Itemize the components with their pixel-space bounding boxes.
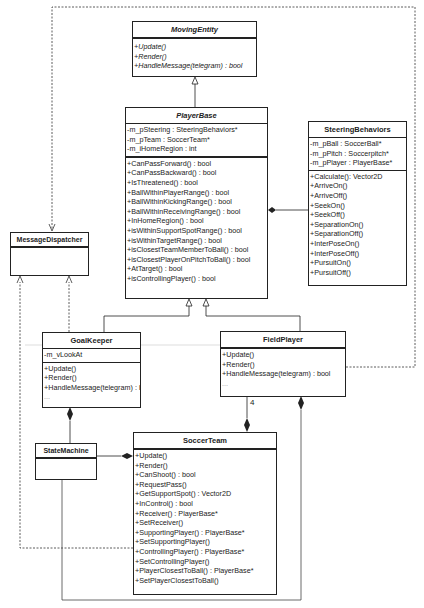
operation: +isClosestPlayerOnPitchToBall() : bool — [127, 255, 266, 265]
operation: +SeparationOn() — [310, 220, 405, 230]
attribute: -m_pPitch : Soccerpitch* — [310, 149, 405, 159]
operation: +RequestPass() — [135, 480, 275, 490]
operation: +InterPoseOn() — [310, 239, 405, 249]
operation: +ArriveOff() — [310, 191, 405, 201]
operation: ... — [44, 392, 139, 402]
operations-section: +Update() +Render() +HandleMessage(teleg… — [133, 39, 256, 73]
operation: +SetSupportingPlayer() — [135, 537, 275, 547]
attributes-section: -m_vLookAt — [43, 349, 140, 363]
operation: +InterPoseOff() — [310, 249, 405, 259]
operation: +SeekOff() — [310, 210, 405, 220]
operation: +SupportingPlayer() : PlayerBase* — [135, 528, 275, 538]
operations-section: +CanPassForward() : bool +CanPassBackwar… — [126, 158, 267, 286]
operation: +isControllingPlayer() : bool — [127, 274, 266, 284]
class-name: MessageDispatcher — [11, 233, 88, 248]
class-soccer-team: SoccerTeam +Update() +Render() +CanShoot… — [133, 432, 277, 595]
class-name: PlayerBase — [126, 108, 267, 124]
operations-section: +Update() +Render() +HandleMessage(teleg… — [43, 363, 140, 404]
class-player-base: PlayerBase -m_pSteering : SteeringBehavi… — [125, 107, 268, 299]
operation: +SeekOn() — [310, 201, 405, 211]
operation: +SetControllingPlayer() — [135, 557, 275, 567]
operation: +PlayerClosestToBall() : PlayerBase* — [135, 566, 275, 576]
operation: +ControllingPlayer() : PlayerBase* — [135, 547, 275, 557]
operation: +InControl() : bool — [135, 499, 275, 509]
class-state-machine: StateMachine — [35, 443, 97, 480]
operation: +SeparationOff() — [310, 229, 405, 239]
operation: +Update() — [135, 451, 275, 461]
operation: +Render() — [135, 461, 275, 471]
operation: +isWithinSupportSpotRange() : bool — [127, 226, 266, 236]
operation: +Calculate(): Vector2D — [310, 172, 405, 182]
operation: ... — [222, 379, 344, 389]
class-message-dispatcher: MessageDispatcher — [10, 232, 89, 276]
operations-section: +Calculate(): Vector2D +ArriveOn() +Arri… — [309, 171, 406, 280]
class-steering-behaviors: SteeringBehaviors -m_pBall : SoccerBall*… — [308, 121, 407, 286]
operation: +isClosestTeamMemberToBall() : bool — [127, 245, 266, 255]
operation: +isWithinTargetRange() : bool — [127, 236, 266, 246]
class-field-player: FieldPlayer +Update() +Render() +HandleM… — [220, 331, 346, 397]
operation: +InHomeRegion() : bool — [127, 216, 266, 226]
operation: +Render() — [134, 52, 255, 62]
operation: +GetSupportSpot() : Vector2D — [135, 489, 275, 499]
operation: +HandleMessage(telegram) : bool — [222, 369, 344, 379]
attributes-section: -m_pBall : SoccerBall* -m_pPitch : Socce… — [309, 138, 406, 171]
class-name: FieldPlayer — [221, 332, 345, 349]
class-name: MovingEntity — [133, 22, 256, 39]
operation: +BallWithinPlayerRange() : bool — [127, 188, 266, 198]
operation: +ArriveOn() — [310, 181, 405, 191]
operation: +Update() — [44, 364, 139, 374]
attribute: -m_pBall : SoccerBall* — [310, 139, 405, 149]
operation: +HandleMessage(telegram) : bool — [44, 383, 139, 393]
multiplicity-label: 4 — [250, 398, 254, 407]
operation: +Render() — [44, 373, 139, 383]
operation: +IsThreatened() : bool — [127, 178, 266, 188]
operations-section: +Update() +Render() +CanShoot() : bool +… — [134, 450, 276, 587]
operation: +BallWithinReceivingRange() : bool — [127, 207, 266, 217]
operation: +Receiver() : PlayerBase* — [135, 509, 275, 519]
operation: +BallWithinKickingRange() : bool — [127, 197, 266, 207]
operation: +AtTarget() : bool — [127, 264, 266, 274]
class-name: SoccerTeam — [134, 433, 276, 450]
operations-section: +Update() +Render() +HandleMessage(teleg… — [221, 349, 345, 390]
operation: +Update() — [134, 42, 255, 52]
attributes-section: -m_pSteering : SteeringBehaviors* -m_pTe… — [126, 124, 267, 158]
class-name: GoalKeeper — [43, 333, 140, 349]
operation: +CanPassBackward() : bool — [127, 168, 266, 178]
operation: +PursuitOn() — [310, 258, 405, 268]
class-name: StateMachine — [36, 444, 96, 459]
attribute: -m_pSteering : SteeringBehaviors* — [127, 125, 266, 135]
operation: +PursuitOff() — [310, 268, 405, 278]
operation: +CanPassForward() : bool — [127, 159, 266, 169]
operation: +Render() — [222, 360, 344, 370]
attribute: -m_vLookAt — [44, 350, 139, 360]
operation: +SetPlayerClosestToBall() — [135, 576, 275, 586]
operation: +HandleMessage(telegram) : bool — [134, 61, 255, 71]
operation: +CanShoot() : bool — [135, 470, 275, 480]
attribute: -m_iHomeRegion : int — [127, 144, 266, 154]
class-name: SteeringBehaviors — [309, 122, 406, 138]
class-goal-keeper: GoalKeeper -m_vLookAt +Update() +Render(… — [42, 332, 141, 408]
operation: +Update() — [222, 350, 344, 360]
class-moving-entity: MovingEntity +Update() +Render() +Handle… — [132, 21, 257, 77]
operation: +SetReceiver() — [135, 518, 275, 528]
attribute: -m_pPlayer : PlayerBase* — [310, 158, 405, 168]
attribute: -m_pTeam : SoccerTeam* — [127, 135, 266, 145]
